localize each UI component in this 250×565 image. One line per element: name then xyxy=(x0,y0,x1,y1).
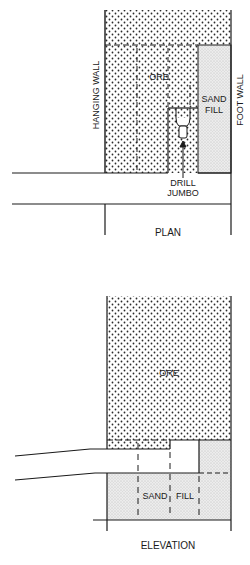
elevation-fill-label: FILL xyxy=(176,491,194,501)
hanging-wall-label: HANGING WALL xyxy=(91,61,101,130)
plan-ore-lower xyxy=(105,45,168,173)
elevation-sand-fill-lower xyxy=(107,473,231,520)
foot-wall-label: FOOT WALL xyxy=(235,74,245,126)
elevation-sand-label: SAND xyxy=(142,491,168,501)
drill-label: DRILL xyxy=(170,178,196,188)
stope-diagram: ORE SAND FILL HANGING WALL FOOT WALL DRI… xyxy=(0,0,250,565)
plan-ore-block xyxy=(168,45,198,108)
elevation-ore-label: ORE xyxy=(159,368,179,378)
plan-fill-label: FILL xyxy=(205,105,223,115)
plan-caption: PLAN xyxy=(155,227,181,238)
plan-sand-label: SAND xyxy=(201,94,227,104)
elevation-view: ORE SAND FILL ELEVATION xyxy=(15,296,231,551)
plan-ore-label: ORE xyxy=(149,72,169,82)
plan-view: ORE SAND FILL HANGING WALL FOOT WALL DRI… xyxy=(12,10,245,238)
elevation-caption: ELEVATION xyxy=(141,540,196,551)
elevation-drift-top xyxy=(15,449,170,456)
jumbo-label: JUMBO xyxy=(167,188,199,198)
elevation-sand-fill-right xyxy=(199,440,231,473)
